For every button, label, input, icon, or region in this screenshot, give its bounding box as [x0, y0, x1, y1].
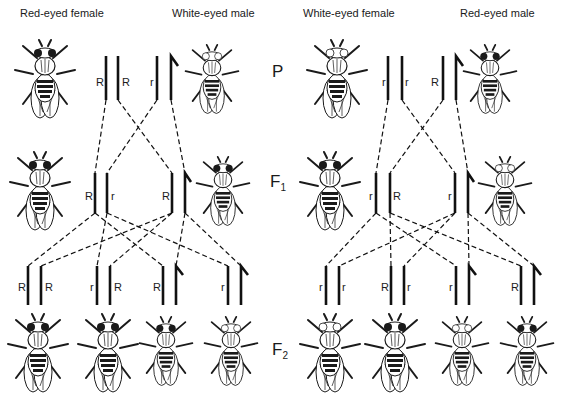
fly-f2 — [205, 317, 258, 386]
fly-f2 — [140, 317, 193, 386]
fly-f2 — [436, 317, 489, 386]
fly-white-eyed-male-p — [186, 45, 239, 114]
fly-f2 — [365, 314, 425, 392]
chromosomes — [28, 56, 541, 305]
fly-f2 — [8, 314, 68, 392]
fly-red-eyed-male-p — [464, 45, 517, 114]
fly-red-eyed-female-f1 — [300, 152, 360, 230]
fly-white-eyed-female-p — [307, 40, 367, 118]
inheritance-diagram — [0, 0, 563, 400]
fly-f2 — [501, 317, 554, 386]
fly-red-eyed-male-f1 — [197, 157, 250, 226]
fly-red-eyed-female-p — [15, 40, 75, 118]
inheritance-lines — [28, 100, 534, 266]
fly-white-eyed-male-f1 — [479, 157, 532, 226]
fly-f2 — [300, 314, 360, 392]
fly-f2 — [78, 314, 138, 392]
fly-red-eyed-female-f1 — [10, 152, 70, 230]
